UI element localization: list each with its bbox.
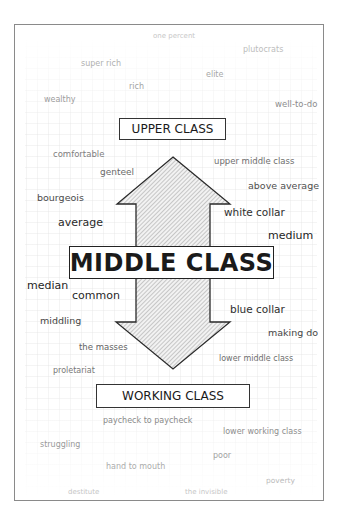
- class-term: poverty: [266, 477, 295, 485]
- class-term: middling: [40, 316, 81, 326]
- class-term: struggling: [40, 441, 80, 449]
- class-term: median: [27, 280, 68, 291]
- upper-class-label: UPPER CLASS: [119, 118, 226, 140]
- class-term: super rich: [81, 60, 121, 68]
- class-term: bourgeois: [37, 193, 84, 203]
- class-term: the invisible: [185, 489, 227, 496]
- middle-class-title: MIDDLE CLASS: [69, 246, 274, 279]
- class-term: genteel: [100, 168, 134, 177]
- class-term: destitute: [68, 489, 99, 496]
- class-term: white collar: [224, 207, 285, 218]
- class-term: comfortable: [53, 150, 104, 159]
- class-term: common: [72, 290, 120, 301]
- class-term: upper middle class: [214, 157, 294, 166]
- class-term: proletariat: [53, 367, 95, 375]
- class-term: wealthy: [44, 96, 76, 104]
- class-term: poor: [213, 452, 231, 460]
- class-term: lower middle class: [219, 355, 293, 363]
- class-term: hand to mouth: [106, 463, 165, 471]
- class-term: the masses: [79, 343, 128, 352]
- class-term: well-to-do: [275, 100, 317, 109]
- class-term: above average: [248, 181, 319, 191]
- class-term: making do: [268, 328, 318, 338]
- class-term: blue collar: [230, 304, 285, 315]
- class-term: medium: [268, 230, 313, 241]
- class-term: plutocrats: [243, 46, 283, 54]
- class-term: one percent: [153, 33, 195, 40]
- class-term: lower working class: [223, 428, 302, 436]
- class-term: rich: [129, 83, 144, 91]
- class-term: average: [58, 217, 103, 228]
- class-term: elite: [206, 71, 223, 79]
- working-class-label: WORKING CLASS: [96, 384, 250, 408]
- class-term: paycheck to paycheck: [103, 417, 192, 425]
